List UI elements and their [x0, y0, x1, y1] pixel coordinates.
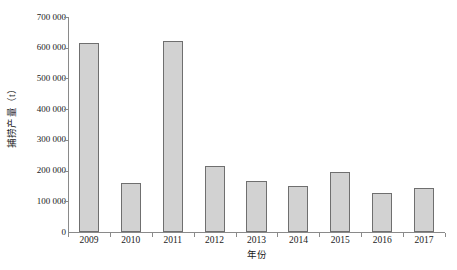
x-tick-label: 2013: [236, 235, 278, 246]
plot-area: [68, 17, 445, 232]
x-axis-tick-labels: 200920102011201220132014201520162017: [68, 235, 445, 249]
x-axis-line: [68, 232, 445, 233]
bar: [246, 181, 266, 232]
x-axis-title: 年份: [68, 249, 445, 261]
bars-layer: [68, 17, 445, 232]
bar-chart-figure: 捕捞产量（t） 0100 000200 000300 000400 000500…: [0, 0, 457, 270]
x-tick-label: 2009: [68, 235, 110, 246]
bar: [79, 43, 99, 232]
x-tick-label: 2015: [319, 235, 361, 246]
y-tick-label: 0: [18, 228, 66, 237]
bar: [205, 166, 225, 232]
x-tick-label: 2010: [110, 235, 152, 246]
bar: [372, 193, 392, 232]
bar: [330, 172, 350, 232]
y-tick-label: 300 000: [18, 135, 66, 144]
y-tick-label: 100 000: [18, 197, 66, 206]
x-tick-label: 2017: [403, 235, 445, 246]
bar: [121, 183, 141, 232]
x-tick-label: 2012: [194, 235, 236, 246]
y-tick-label: 200 000: [18, 166, 66, 175]
y-axis-title-text: 捕捞产量（t）: [4, 84, 18, 148]
x-tick-label: 2014: [277, 235, 319, 246]
y-tick-label: 600 000: [18, 43, 66, 52]
y-axis-tick-labels: 0100 000200 000300 000400 000500 000600 …: [18, 0, 66, 270]
bar: [414, 188, 434, 232]
x-tick-mark: [445, 233, 446, 237]
y-tick-label: 400 000: [18, 105, 66, 114]
bar: [288, 186, 308, 232]
y-tick-label: 500 000: [18, 74, 66, 83]
x-tick-label: 2011: [152, 235, 194, 246]
bar: [163, 41, 183, 232]
x-tick-label: 2016: [361, 235, 403, 246]
y-tick-label: 700 000: [18, 13, 66, 22]
